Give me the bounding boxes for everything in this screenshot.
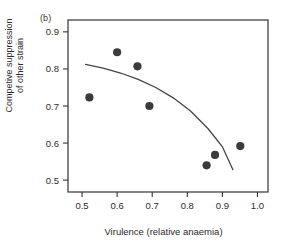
data-point: [211, 151, 219, 159]
y-axis-tick-label: 0.6: [46, 138, 59, 149]
x-axis-tick-label: 0.8: [181, 200, 194, 211]
x-axis-tick-label: 0.7: [146, 200, 159, 211]
y-axis-tick-label: 0.5: [46, 175, 59, 186]
x-axis-title: Virulence (relative anaemia): [0, 226, 291, 237]
x-axis-tick-label: 0.5: [75, 200, 88, 211]
x-axis-tick-label: 0.6: [111, 200, 124, 211]
x-axis-tick-label: 1.0: [251, 200, 264, 211]
y-axis-tick-label: 0.7: [46, 101, 59, 112]
data-point: [236, 142, 244, 150]
x-axis-tick-label: 0.9: [216, 200, 229, 211]
scatter-plot: 0.50.60.70.80.91.00.50.60.70.80.9: [0, 0, 291, 251]
data-point: [133, 62, 141, 70]
y-axis-tick-label: 0.9: [46, 26, 59, 37]
data-point: [113, 48, 121, 56]
fitted-curve: [86, 64, 233, 169]
figure-panel-b: (b) Competive suppression of other strai…: [0, 0, 291, 251]
x-axis-title-text: Virulence (relative anaemia): [68, 226, 222, 237]
y-axis-tick-label: 0.8: [46, 63, 59, 74]
data-point: [85, 93, 93, 101]
data-point: [203, 161, 211, 169]
data-point: [145, 102, 153, 110]
plot-frame: [68, 20, 268, 192]
